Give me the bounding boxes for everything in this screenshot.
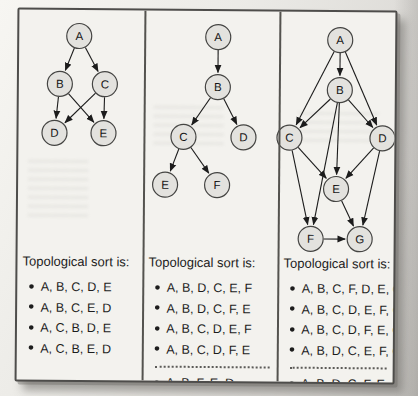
sort-title: Topological sort is: (148, 255, 274, 271)
edge-C-F (191, 147, 209, 173)
edge-B-F (313, 103, 337, 225)
node-B: B (327, 77, 352, 102)
edge-A-C (85, 47, 98, 71)
node-G: G (347, 227, 372, 252)
node-F: F (204, 172, 229, 197)
sort-item: A, C, B, E, D (29, 338, 140, 359)
node-F: F (298, 226, 323, 251)
dotted-separator (290, 367, 387, 370)
node-E: E (152, 172, 177, 197)
node-B: B (47, 71, 72, 96)
node-D: D (370, 126, 395, 151)
graph-panel-3: ABCDEFG (276, 27, 396, 252)
node-label: B (336, 84, 344, 96)
edge-B-C (192, 98, 211, 125)
node-label: G (355, 233, 364, 245)
edge-C-F (292, 150, 309, 224)
dotted-separator (155, 366, 270, 369)
node-label: E (332, 183, 340, 195)
node-label: A (336, 34, 344, 46)
node-E: E (323, 176, 348, 201)
node-C: C (92, 72, 117, 97)
panel-1-sorts: Topological sort is: A, B, C, D, EA, B, … (22, 254, 141, 360)
edge-B-E (337, 103, 340, 175)
node-label: D (378, 132, 386, 144)
node-D: D (231, 125, 256, 150)
sort-item: A, B, D, C, E, F (155, 278, 274, 299)
node-label: C (101, 78, 109, 90)
scan-edge-shade (394, 0, 418, 396)
node-label: F (214, 179, 221, 191)
node-label: C (285, 132, 293, 144)
sort-list: A, B, D, C, E, FA, B, D, C, F, EA, B, C,… (147, 278, 274, 385)
sort-list: A, B, C, F, D, E, CA, B, C, D, E, F, GA,… (282, 279, 391, 385)
sort-item: A, B, C, D, E (29, 277, 140, 298)
edge-E-G (341, 201, 353, 226)
edge-B-D (56, 97, 58, 119)
sort-title: Topological sort is: (22, 254, 140, 270)
panel-3-sorts: Topological sort is: A, B, C, F, D, E, C… (282, 256, 391, 385)
node-label: B (56, 78, 64, 90)
sort-item: A, B, C, D, F, E, G (290, 320, 391, 341)
node-label: F (307, 233, 314, 245)
node-C: C (277, 125, 302, 150)
graph-panel-2: ABCDEF (152, 24, 256, 198)
sort-item: A, B, C, D, E, F (155, 319, 274, 340)
edge-D-G (363, 151, 380, 225)
sort-item: A, B, D, C, E, F, G (290, 340, 391, 361)
sort-item: A, B, D, C, F, E, G (289, 374, 390, 385)
edge-A-B (65, 48, 74, 70)
graph-panel-1: ABCDE (42, 23, 118, 146)
figure-box: ABCDEABCDEFABCDEFG Topological sort is: … (15, 8, 398, 385)
node-label: E (161, 179, 169, 191)
node-label: C (179, 131, 187, 143)
node-A: A (67, 23, 92, 48)
sort-item: A, C, B, D, E (29, 318, 140, 339)
sort-list: A, B, C, D, EA, B, C, E, DA, C, B, D, EA… (22, 277, 141, 360)
node-E: E (91, 121, 116, 146)
node-label: B (214, 81, 222, 93)
edge-C-E (170, 149, 179, 171)
edge-B-D (224, 99, 238, 125)
node-label: A (214, 31, 222, 43)
edge-C-E (298, 147, 327, 178)
sort-item: A, B, C, F, D, E, C (290, 279, 391, 300)
node-C: C (171, 124, 196, 149)
node-B: B (205, 74, 230, 99)
panel-2-sorts: Topological sort is: A, B, D, C, E, FA, … (147, 255, 274, 385)
sort-item: A, B, C, D, F, E (155, 339, 274, 360)
sort-item: A, B, F, E, D (154, 373, 273, 385)
node-label: D (239, 131, 247, 143)
edge-B-C (300, 99, 330, 128)
node-D: D (42, 120, 67, 145)
node-label: E (100, 127, 108, 139)
edge-C-E (104, 97, 105, 119)
edge-D-E (346, 148, 374, 179)
node-label: D (50, 127, 58, 139)
sort-item: A, B, C, D, E, F, G (290, 299, 391, 320)
node-A: A (206, 24, 231, 49)
node-label: A (75, 30, 83, 42)
sort-item: A, B, D, C, F, E (155, 298, 274, 319)
sort-item: A, B, C, E, D (29, 297, 140, 318)
node-A: A (328, 27, 353, 52)
edge-B-D (348, 100, 373, 128)
sort-title: Topological sort is: (283, 256, 391, 272)
